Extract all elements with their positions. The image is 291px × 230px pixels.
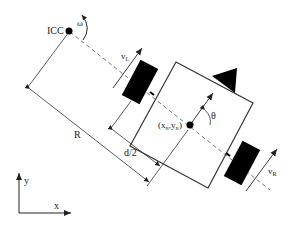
diff-drive-diagram: ICC ω vL vR θ (xR,yR) R d/2 y x (0, 0, 291, 230)
y-axis-label: y (24, 175, 29, 186)
v-left-label: vL (121, 51, 130, 62)
robot-center-point (187, 122, 194, 129)
theta-label: θ (211, 110, 216, 121)
heading-triangle-icon (212, 68, 237, 93)
half-width-tick (111, 101, 131, 128)
heading-arrow (190, 93, 213, 125)
theta-arc (205, 110, 210, 125)
half-width-label: d/2 (124, 147, 137, 158)
x-axis-label: x (54, 200, 59, 211)
icc-label: ICC (47, 25, 64, 36)
v-right-label: vR (268, 166, 277, 177)
radius-dimension-line (30, 89, 149, 182)
left-axle-stub (150, 92, 154, 95)
icc-point (66, 28, 73, 35)
icc-perpendicular-line (28, 32, 69, 87)
radius-label: R (74, 129, 81, 140)
omega-label: ω (77, 18, 83, 28)
position-label: (xR,yR) (158, 120, 182, 131)
